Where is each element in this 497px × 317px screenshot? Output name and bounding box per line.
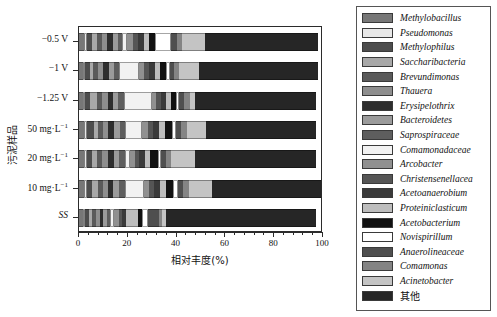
y-axis-tick-label: −1 V bbox=[8, 63, 68, 73]
legend-label: Erysipelothrix bbox=[400, 101, 454, 111]
legend-label: Novispirillum bbox=[400, 232, 452, 242]
legend-item: Bacteroidetes bbox=[362, 113, 487, 128]
legend-label: Acetoanaerobium bbox=[400, 188, 467, 198]
legend-item: Saprospiraceae bbox=[362, 128, 487, 143]
x-axis-major-tick bbox=[176, 232, 177, 237]
legend-swatch bbox=[362, 28, 393, 38]
legend-item: Anaerolineaceae bbox=[362, 245, 487, 260]
legend-item: 其他 bbox=[362, 288, 487, 303]
legend-swatch bbox=[362, 159, 393, 169]
bar-50mgL bbox=[79, 121, 321, 139]
x-axis-minor-tick bbox=[98, 232, 99, 235]
bar-segment bbox=[205, 33, 319, 51]
bar-segment bbox=[199, 62, 319, 80]
x-axis-major-tick bbox=[273, 232, 274, 237]
legend-item: Comamonadaceae bbox=[362, 142, 487, 157]
legend-item: Methylophilus bbox=[362, 40, 487, 55]
x-axis-major-tick bbox=[322, 232, 323, 237]
bar-segment bbox=[124, 92, 152, 110]
legend-item: Pseudomonas bbox=[362, 26, 487, 41]
x-axis-tick-label: 100 bbox=[307, 238, 337, 248]
legend-swatch bbox=[362, 13, 393, 23]
bar-segment bbox=[125, 180, 144, 198]
bar-segment bbox=[119, 62, 140, 80]
legend-label: Saccharibacteria bbox=[400, 57, 465, 67]
bar-segment bbox=[195, 150, 316, 168]
legend-item: Thauera bbox=[362, 84, 487, 99]
legend-label: Arcobacter bbox=[400, 159, 442, 169]
x-axis-minor-tick bbox=[234, 232, 235, 235]
bar--1V bbox=[79, 62, 321, 80]
x-axis-minor-tick bbox=[146, 232, 147, 235]
legend-swatch bbox=[362, 247, 393, 257]
legend-swatch bbox=[362, 218, 393, 228]
legend-label: Anaerolineaceae bbox=[400, 247, 464, 257]
bar-segment bbox=[171, 150, 195, 168]
bar--1.25V bbox=[79, 92, 321, 110]
legend-swatch bbox=[362, 57, 393, 67]
legend-label: Pseudomonas bbox=[400, 28, 453, 38]
x-axis-line bbox=[78, 232, 322, 233]
x-axis-minor-tick bbox=[254, 232, 255, 235]
x-axis-minor-tick bbox=[263, 232, 264, 235]
x-axis-minor-tick bbox=[137, 232, 138, 235]
legend-swatch bbox=[362, 72, 393, 82]
legend-item: Proteiniclasticum bbox=[362, 201, 487, 216]
y-axis-tick-label: SS bbox=[8, 210, 68, 220]
x-axis-minor-tick bbox=[185, 232, 186, 235]
legend-label: Thauera bbox=[400, 86, 432, 96]
x-axis-tick-label: 40 bbox=[161, 238, 191, 248]
x-axis-minor-tick bbox=[166, 232, 167, 235]
legend-label: Acetobacterium bbox=[400, 218, 460, 228]
legend-item: Methylobacillus bbox=[362, 11, 487, 26]
x-axis-major-tick bbox=[78, 232, 79, 237]
legend-swatch bbox=[362, 115, 393, 125]
y-axis-tick-label: −1.25 V bbox=[8, 93, 68, 103]
x-axis-minor-tick bbox=[293, 232, 294, 235]
bar-segment bbox=[155, 33, 171, 51]
legend-swatch bbox=[362, 276, 393, 286]
legend-label: Bacteroidetes bbox=[400, 115, 452, 125]
x-axis-tick-label: 80 bbox=[258, 238, 288, 248]
legend-label: Comamonadaceae bbox=[400, 145, 471, 155]
legend-swatch bbox=[362, 232, 393, 242]
legend-swatch bbox=[362, 130, 393, 140]
legend-swatch bbox=[362, 203, 393, 213]
legend-swatch bbox=[362, 86, 393, 96]
x-axis-minor-tick bbox=[195, 232, 196, 235]
legend-label: Brevundimonas bbox=[400, 72, 459, 82]
x-axis-title: 相对丰度(%) bbox=[78, 252, 322, 267]
legend-label: Saprospiraceae bbox=[400, 130, 459, 140]
bar-10mgL bbox=[79, 180, 321, 198]
legend-label: Proteiniclasticum bbox=[400, 203, 467, 213]
bar-segment bbox=[90, 92, 97, 110]
legend-label: 其他 bbox=[400, 288, 420, 303]
bar-segment bbox=[187, 121, 206, 139]
plot-area bbox=[78, 26, 322, 232]
legend-label: Methylobacillus bbox=[400, 13, 461, 23]
x-axis-tick-label: 60 bbox=[209, 238, 239, 248]
legend-item: Brevundimonas bbox=[362, 69, 487, 84]
legend-item: Novispirillum bbox=[362, 230, 487, 245]
legend: MethylobacillusPseudomonasMethylophilusS… bbox=[356, 6, 491, 311]
bar-segment bbox=[166, 180, 173, 198]
x-axis-minor-tick bbox=[107, 232, 108, 235]
legend-swatch bbox=[362, 291, 393, 301]
legend-label: Methylophilus bbox=[400, 42, 454, 52]
legend-label: Christensenellacea bbox=[400, 174, 473, 184]
legend-item: Comamonas bbox=[362, 259, 487, 274]
legend-swatch bbox=[362, 188, 393, 198]
bar-segment bbox=[195, 92, 316, 110]
y-axis-tick-label: 20 mg·L−1 bbox=[8, 151, 68, 163]
x-axis-minor-tick bbox=[302, 232, 303, 235]
bar-segment bbox=[148, 209, 159, 227]
y-axis-tick-label: 10 mg·L−1 bbox=[8, 181, 68, 193]
legend-swatch bbox=[362, 261, 393, 271]
legend-swatch bbox=[362, 174, 393, 184]
x-axis-minor-tick bbox=[244, 232, 245, 235]
x-axis-tick-label: 20 bbox=[112, 238, 142, 248]
bar-20mgL bbox=[79, 150, 321, 168]
bar-segment bbox=[166, 209, 316, 227]
x-axis-minor-tick bbox=[205, 232, 206, 235]
bar-segment bbox=[206, 121, 316, 139]
